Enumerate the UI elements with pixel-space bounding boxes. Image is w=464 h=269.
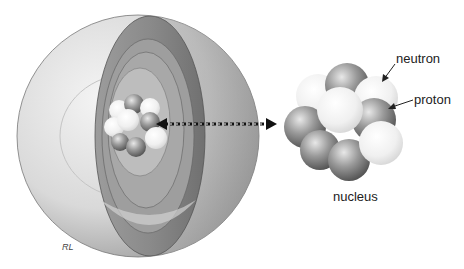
nucleus-large	[284, 63, 403, 181]
atom-sphere	[17, 15, 265, 257]
label-nucleus: nucleus	[333, 189, 378, 204]
label-proton: proton	[414, 92, 451, 107]
arrowhead-right-icon	[266, 118, 277, 130]
atom-diagram	[0, 0, 464, 269]
artist-signature: RL	[62, 242, 74, 252]
nucleus-small	[104, 94, 167, 157]
label-neutron: neutron	[396, 51, 440, 66]
neutron-particle	[359, 121, 403, 165]
neutron-particle	[317, 87, 363, 133]
